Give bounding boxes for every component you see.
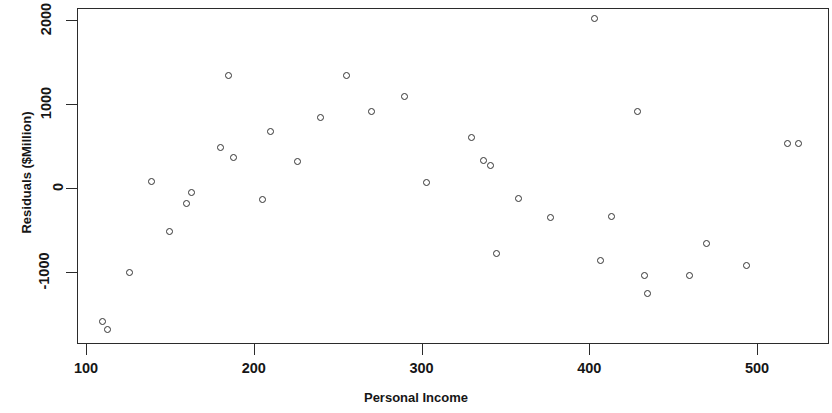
x-axis-tick	[589, 344, 590, 355]
y-axis-tick-label: 2000	[0, 11, 62, 27]
scatter-plot-figure: -1000010002000100200300400500 Residuals …	[0, 0, 832, 413]
y-axis-tick-label-text: -1000	[35, 253, 51, 290]
y-axis-tick-label-text: 2000	[38, 2, 54, 34]
y-axis-tick	[66, 104, 77, 105]
x-axis-tick-label: 500	[727, 360, 787, 376]
y-axis-tick-label-text: 1000	[38, 87, 54, 119]
x-axis-title: Personal Income	[0, 390, 832, 405]
x-axis-tick	[254, 344, 255, 355]
plot-frame	[77, 8, 829, 344]
x-axis-tick	[757, 344, 758, 355]
y-axis-tick-label-text: 0	[50, 183, 66, 191]
x-axis-tick-label: 400	[559, 360, 619, 376]
y-axis-tick	[66, 20, 77, 21]
y-axis-tick	[66, 188, 77, 189]
y-axis-title: Residuals ($Million)	[19, 63, 34, 283]
x-axis-tick-label: 300	[392, 360, 452, 376]
x-axis-tick	[86, 344, 87, 355]
x-axis-tick	[422, 344, 423, 355]
x-axis-tick-label: 100	[56, 360, 116, 376]
x-axis-tick-label: 200	[224, 360, 284, 376]
y-axis-tick	[66, 272, 77, 273]
